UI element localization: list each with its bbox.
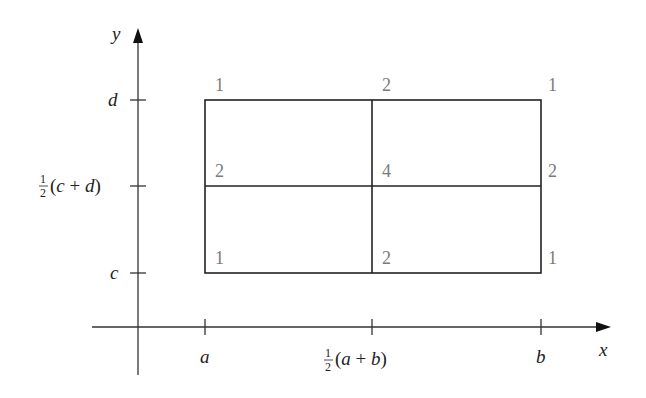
weight-top-right: 1 [548, 75, 557, 95]
weight-top-mid: 2 [382, 75, 391, 95]
x-tick-label-mid-text: (a + b) [335, 348, 387, 370]
x-axis [92, 322, 611, 332]
y-axis [133, 28, 143, 375]
grid-diagram: y x d 1 2 (c + d) c a 1 2 (a + b) b 1 2 … [0, 0, 646, 398]
weight-top-left: 1 [215, 75, 224, 95]
svg-text:1: 1 [40, 172, 46, 186]
x-tick-label-b: b [536, 346, 546, 367]
x-tick-label-mid: 1 2 (a + b) [324, 346, 387, 374]
diagram-canvas: y x d 1 2 (c + d) c a 1 2 (a + b) b 1 2 … [0, 0, 646, 398]
x-axis-arrow-icon [596, 322, 611, 332]
weight-center: 4 [382, 161, 391, 181]
weight-bottom-left: 1 [215, 248, 224, 268]
weight-bottom-right: 1 [548, 248, 557, 268]
y-tick-label-mid: 1 2 (c + d) [39, 172, 101, 200]
x-tick-label-a: a [200, 346, 210, 367]
y-axis-arrow-icon [133, 28, 143, 43]
weight-mid-left: 2 [215, 161, 224, 181]
x-axis-label: x [598, 339, 608, 360]
y-tick-label-c: c [110, 262, 119, 283]
weights: 1 2 1 2 4 2 1 2 1 [215, 75, 557, 268]
svg-text:1: 1 [325, 346, 331, 360]
svg-text:2: 2 [325, 360, 331, 374]
svg-text:2: 2 [40, 186, 46, 200]
weight-bottom-mid: 2 [382, 248, 391, 268]
y-tick-label-d: d [108, 89, 118, 110]
y-tick-label-mid-text: (c + d) [50, 175, 101, 197]
y-axis-label: y [110, 23, 121, 44]
weight-mid-right: 2 [548, 161, 557, 181]
subdivided-rectangle [205, 100, 541, 273]
